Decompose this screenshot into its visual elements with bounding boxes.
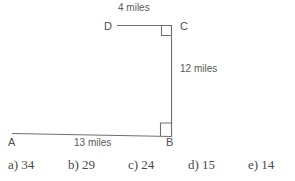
answer-choice-e[interactable]: e) 14	[248, 157, 274, 173]
answer-choice-c[interactable]: c) 24	[128, 157, 154, 173]
segment-label-bottom: 13 miles	[74, 137, 111, 148]
answer-choice-d[interactable]: d) 15	[188, 157, 215, 173]
answer-choices: a) 34 b) 29 c) 24 d) 15 e) 14	[0, 157, 295, 179]
vertex-label-b: B	[166, 137, 173, 148]
geometry-figure	[0, 0, 295, 181]
vertex-label-a: A	[8, 137, 15, 148]
segment-label-top: 4 miles	[118, 2, 150, 13]
vertex-label-d: D	[104, 21, 112, 32]
right-angle-marker-at-B	[161, 123, 172, 136]
vertex-label-c: C	[180, 21, 188, 32]
right-angle-marker-at-C	[162, 26, 172, 36]
segment-label-right: 12 miles	[180, 63, 217, 74]
answer-choice-a[interactable]: a) 34	[8, 157, 34, 173]
answer-choice-b[interactable]: b) 29	[68, 157, 95, 173]
